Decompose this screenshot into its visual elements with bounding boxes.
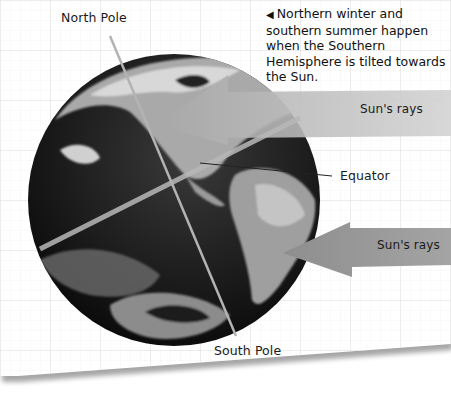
sun-rays-label-top: Sun's rays <box>360 102 423 116</box>
explanation-caption: ◀Northern winter and southern summer hap… <box>266 6 451 85</box>
sun-rays-label-bottom: Sun's rays <box>377 238 440 252</box>
caption-text: Northern winter and southern summer happ… <box>266 6 445 84</box>
north-pole-label: North Pole <box>61 10 127 25</box>
south-pole-label: South Pole <box>214 343 281 358</box>
diagram-canvas: ◀Northern winter and southern summer hap… <box>0 0 451 395</box>
left-pointer-icon: ◀ <box>266 9 274 20</box>
equator-label: Equator <box>340 168 390 183</box>
